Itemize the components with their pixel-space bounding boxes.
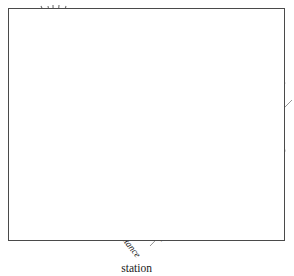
- figure-border: [8, 8, 285, 241]
